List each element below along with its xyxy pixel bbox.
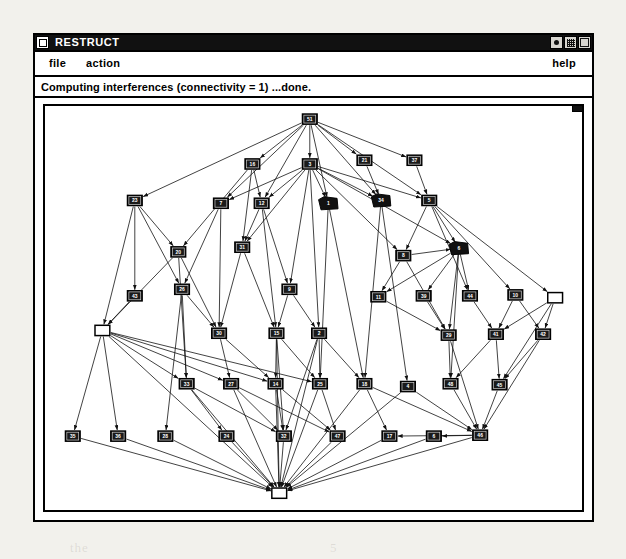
maximize-button[interactable] <box>564 36 577 49</box>
graph-node[interactable]: 14 <box>268 379 283 389</box>
canvas-resize-handle[interactable] <box>572 104 583 112</box>
graph-node[interactable]: 21 <box>357 155 372 165</box>
graph-node[interactable]: 1 <box>319 197 338 210</box>
window-title: RESTRUCT <box>49 35 128 50</box>
menu-item-help[interactable]: help <box>542 52 586 75</box>
graph-node-inner-plate <box>176 285 188 293</box>
scanned-page-background: ah4321nc51b3afonthe212311the5 RESTRUCT f… <box>0 0 626 559</box>
graph-node[interactable]: 6 <box>426 431 441 441</box>
graph-node[interactable]: 37 <box>407 155 422 165</box>
graph-node-inner-plate <box>494 381 506 389</box>
graph-node[interactable]: 28 <box>158 431 173 441</box>
graph-node[interactable] <box>272 488 287 498</box>
graph-edge <box>320 209 328 377</box>
graph-node-inner-plate <box>256 199 268 207</box>
graph-edge <box>264 209 288 283</box>
graph-node[interactable]: 24 <box>219 431 234 441</box>
graph-node[interactable]: 35 <box>65 431 80 441</box>
graph-node[interactable]: 2 <box>312 328 327 338</box>
graph-node-inner-plate <box>428 432 440 440</box>
graph-node-inner-plate <box>215 199 227 207</box>
minimize-button[interactable] <box>550 36 563 49</box>
graph-node[interactable]: 36 <box>111 431 126 441</box>
graph-node[interactable]: 26 <box>175 284 190 294</box>
graph-node[interactable]: 15 <box>269 328 284 338</box>
graph-edge <box>499 301 512 328</box>
graph-edge <box>449 254 458 329</box>
graph-node[interactable]: 9 <box>282 284 297 294</box>
graph-node[interactable]: 31 <box>235 242 250 252</box>
graph-node-collapsed <box>371 194 390 207</box>
graph-node[interactable]: 32 <box>276 431 291 441</box>
menu-item-file[interactable]: file <box>39 52 76 75</box>
title-bar: RESTRUCT <box>35 35 592 52</box>
graph-edge <box>166 295 181 430</box>
graph-node-collapsed <box>449 242 468 255</box>
graph-node[interactable]: 34 <box>371 194 390 207</box>
graph-canvas[interactable]: 5116321372371213452031684326911394410301… <box>43 104 584 512</box>
graph-node-inner-plate <box>537 330 549 338</box>
graph-node[interactable]: 18 <box>357 379 372 389</box>
graph-edge <box>417 166 427 194</box>
graph-node[interactable]: 45 <box>492 380 507 390</box>
graph-node-inner-plate <box>358 380 370 388</box>
graph-edge <box>187 295 214 327</box>
graph-node[interactable]: 41 <box>488 329 503 339</box>
graph-node[interactable]: 43 <box>127 291 142 301</box>
close-button[interactable] <box>578 36 591 49</box>
graph-node-inner-plate <box>304 115 316 123</box>
graph-node[interactable]: 4 <box>401 381 416 391</box>
graph-edge <box>460 254 468 290</box>
graph-node[interactable]: 27 <box>224 379 239 389</box>
graph-edge <box>174 440 271 489</box>
graph-node[interactable] <box>548 293 563 303</box>
graph-node[interactable]: 20 <box>171 247 186 257</box>
graph-node[interactable]: 6 <box>449 242 468 255</box>
graph-edge <box>219 209 221 327</box>
graph-node[interactable]: 44 <box>463 291 478 301</box>
graph-node[interactable]: 5 <box>422 195 437 205</box>
graph-node-inner-plate <box>246 160 258 168</box>
graph-node-inner-plate <box>67 432 79 440</box>
graph-edge <box>221 253 241 327</box>
graph-node-inner-plate <box>314 380 326 388</box>
graph-node-inner-plate <box>358 156 370 164</box>
graph-node[interactable]: 25 <box>313 379 328 389</box>
graph-node[interactable]: 23 <box>127 195 142 205</box>
graph-node[interactable]: 33 <box>179 379 194 389</box>
graph-edge <box>318 122 406 157</box>
graph-node[interactable]: 11 <box>371 292 386 302</box>
graph-node-inner-plate <box>490 330 502 338</box>
graph-node-inner-plate <box>112 432 124 440</box>
graph-node[interactable]: 39 <box>416 291 431 301</box>
graph-node[interactable]: 12 <box>254 198 269 208</box>
graph-edge <box>111 334 223 380</box>
graph-node[interactable]: 3 <box>302 159 317 169</box>
graph-node[interactable]: 29 <box>441 330 456 340</box>
graph-node[interactable]: 46 <box>473 430 488 440</box>
graph-node[interactable] <box>95 325 110 335</box>
graph-edge <box>325 339 359 377</box>
graph-node-inner-plate <box>181 380 193 388</box>
window-menu-icon[interactable] <box>36 36 49 49</box>
graph-drawing: 5116321372371213452031684326911394410301… <box>45 106 582 510</box>
graph-node[interactable]: 42 <box>536 329 551 339</box>
graph-node[interactable]: 47 <box>330 431 345 441</box>
graph-node[interactable]: 30 <box>212 328 227 338</box>
graph-node[interactable]: 48 <box>443 379 458 389</box>
graph-edge <box>278 295 287 327</box>
graph-node[interactable]: 51 <box>302 114 317 124</box>
status-bar: Computing interferences (connectivity = … <box>35 77 592 98</box>
menu-item-action[interactable]: action <box>76 52 130 75</box>
graph-node[interactable]: 10 <box>508 290 523 300</box>
graph-node-layer: 5116321372371213452031684326911394410301… <box>65 114 562 498</box>
graph-edge <box>126 439 270 490</box>
graph-edge <box>103 337 117 431</box>
graph-node[interactable]: 7 <box>214 198 229 208</box>
graph-edge <box>318 168 373 196</box>
graph-edge <box>456 340 490 377</box>
graph-edge <box>520 301 539 328</box>
graph-node[interactable]: 17 <box>382 431 397 441</box>
graph-node[interactable]: 16 <box>245 159 260 169</box>
graph-node[interactable]: 8 <box>396 250 411 260</box>
